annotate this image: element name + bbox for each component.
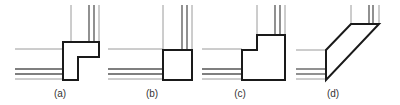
panel-a: (a): [15, 5, 99, 99]
stepped-outline: [242, 35, 285, 80]
l-shape-outline: [63, 42, 99, 80]
corner-junction-diagram: (a) (b) (c) (d): [0, 0, 400, 105]
panel-label-d: (d): [327, 88, 339, 99]
panel-label-c: (c): [234, 88, 246, 99]
parallelogram-outline: [326, 24, 379, 80]
square-outline: [163, 50, 192, 80]
panel-label-a: (a): [54, 88, 66, 99]
panel-d: (d): [296, 5, 379, 99]
panel-b: (b): [108, 5, 192, 99]
panel-c: (c): [202, 5, 285, 99]
panel-label-b: (b): [146, 88, 158, 99]
